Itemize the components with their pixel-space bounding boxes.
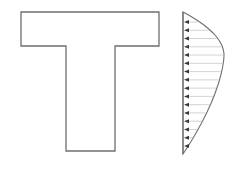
t-section-outline — [21, 12, 159, 151]
arrowhead-left-icon — [184, 28, 189, 32]
arrowhead-left-icon — [184, 53, 189, 57]
arrowhead-left-icon — [184, 144, 189, 148]
arrowhead-left-icon — [184, 20, 189, 24]
arrowhead-left-icon — [184, 86, 189, 90]
arrowhead-left-icon — [184, 127, 189, 131]
arrowhead-left-icon — [184, 94, 189, 98]
arrowhead-left-icon — [184, 119, 189, 123]
arrowhead-left-icon — [184, 78, 189, 82]
arrowhead-left-icon — [184, 45, 189, 49]
arrowhead-left-icon — [184, 37, 189, 41]
diagram-canvas — [0, 0, 236, 169]
arrowhead-left-icon — [184, 103, 189, 107]
distribution-curve — [183, 12, 224, 154]
arrowhead-left-icon — [184, 61, 189, 65]
arrowhead-left-icon — [184, 70, 189, 74]
shear-stress-distribution — [183, 12, 224, 154]
arrowhead-left-icon — [184, 111, 189, 115]
arrowhead-left-icon — [184, 136, 189, 140]
